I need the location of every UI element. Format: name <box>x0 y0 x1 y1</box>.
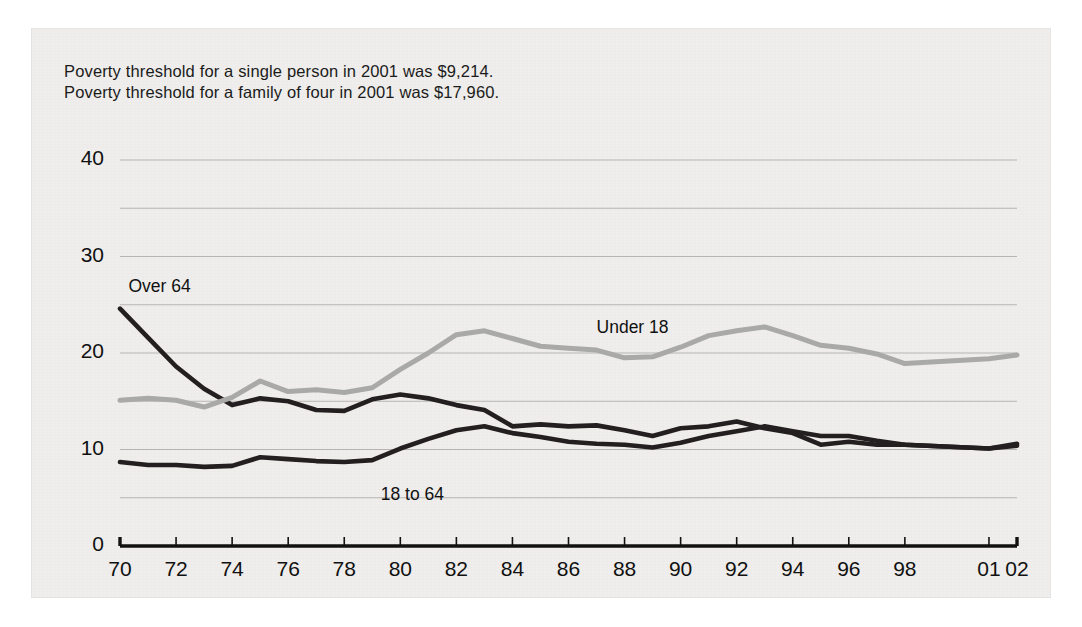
y-axis-tick-label: 30 <box>64 243 104 267</box>
x-axis-tick-label: 94 <box>770 557 816 581</box>
x-axis-tick-label: 90 <box>658 557 704 581</box>
series-annotation-18-to-64: 18 to 64 <box>381 484 444 505</box>
x-axis-tick-label: 88 <box>602 557 648 581</box>
y-axis-tick-label: 40 <box>64 146 104 170</box>
x-axis-tick-label: 92 <box>714 557 760 581</box>
y-axis-tick-label: 20 <box>64 339 104 363</box>
gridlines <box>120 160 1017 498</box>
x-axis-tick-label: 86 <box>546 557 592 581</box>
x-axis-tick-label: 80 <box>377 557 423 581</box>
series-annotation-under-18: Under 18 <box>597 317 669 338</box>
x-axis-tick-label: 82 <box>433 557 479 581</box>
series-line-under-18 <box>120 327 1017 407</box>
y-axis-tick-label: 0 <box>64 532 104 556</box>
x-axis-tick-label: 78 <box>321 557 367 581</box>
x-axis-tick-label: 72 <box>153 557 199 581</box>
series-annotation-over-64: Over 64 <box>128 276 190 297</box>
x-axis-tick-label: 98 <box>882 557 928 581</box>
x-axis-tick-label: 96 <box>826 557 872 581</box>
y-axis-tick-label: 10 <box>64 436 104 460</box>
x-axis-tick-label: 74 <box>209 557 255 581</box>
x-axis-tick-label: 76 <box>265 557 311 581</box>
series-line-over-64 <box>120 309 1017 449</box>
x-axis-tick-label: 70 <box>97 557 143 581</box>
poverty-rate-line-chart <box>0 0 1082 627</box>
x-axis-tick-label: 02 <box>994 557 1040 581</box>
x-axis-tick-label: 84 <box>489 557 535 581</box>
data-series-lines <box>120 309 1017 467</box>
